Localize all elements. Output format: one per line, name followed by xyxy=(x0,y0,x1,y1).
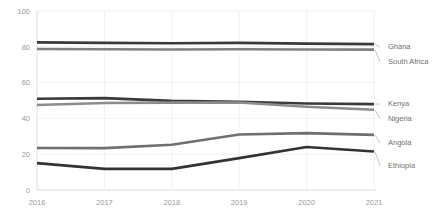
legend-label-south-africa: South Africa xyxy=(388,57,429,66)
x-axis-tick-label: 2016 xyxy=(29,198,46,207)
x-axis-tick-label: 2017 xyxy=(96,198,113,207)
series-lines xyxy=(37,42,374,169)
x-axis-tick-label: 2020 xyxy=(298,198,315,207)
legend-label-nigeria: Nigeria xyxy=(388,114,413,123)
series-line-angola xyxy=(37,133,374,148)
y-axis-tick-labels: 100806040200 xyxy=(17,7,30,195)
legend-leader-line-ethiopia xyxy=(375,152,380,166)
y-axis-tick-label: 80 xyxy=(22,43,30,52)
x-axis-tick-label: 2018 xyxy=(163,198,180,207)
legend-label-ghana: Ghana xyxy=(388,42,411,51)
y-axis-tick-label: 20 xyxy=(22,150,30,159)
legend-label-ethiopia: Ethiopia xyxy=(388,161,416,170)
legend: GhanaSouth AfricaKenyaNigeriaAngolaEthio… xyxy=(375,42,429,170)
series-line-south-africa xyxy=(37,49,374,50)
legend-label-kenya: Kenya xyxy=(388,99,410,108)
line-chart: 100806040200 201620172018201920202021 Gh… xyxy=(0,0,448,224)
x-axis-tick-labels: 201620172018201920202021 xyxy=(29,198,383,207)
y-axis-tick-label: 60 xyxy=(22,78,30,87)
series-line-ghana xyxy=(37,42,374,44)
x-axis-tick-label: 2019 xyxy=(231,198,248,207)
y-axis-tick-label: 100 xyxy=(17,7,30,16)
y-axis-tick-label: 0 xyxy=(26,186,30,195)
x-axis-tick-label: 2021 xyxy=(366,198,383,207)
legend-label-angola: Angola xyxy=(388,138,412,147)
series-line-ethiopia xyxy=(37,147,374,169)
y-axis-tick-label: 40 xyxy=(22,114,30,123)
legend-leader-line-nigeria xyxy=(375,110,380,119)
legend-leader-line-angola xyxy=(375,135,380,143)
legend-leader-line-south-africa xyxy=(375,50,380,62)
chart-canvas: 100806040200 201620172018201920202021 Gh… xyxy=(0,0,448,224)
